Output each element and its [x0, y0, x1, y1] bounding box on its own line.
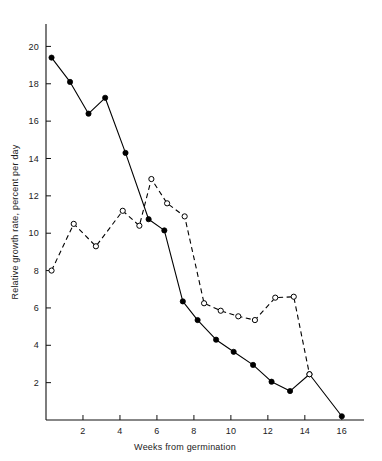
data-point-open	[93, 244, 98, 249]
x-tick-label: 8	[191, 426, 196, 436]
x-axis-title: Weeks from germination	[134, 442, 236, 452]
data-point-open	[218, 308, 223, 313]
x-tick-label: 4	[117, 426, 122, 436]
data-point-open	[307, 372, 312, 377]
data-point-open	[49, 268, 54, 273]
data-point-filled	[162, 228, 167, 233]
data-point-filled	[339, 414, 344, 419]
data-point-open	[149, 176, 154, 181]
data-point-open	[71, 221, 76, 226]
data-point-filled	[103, 95, 108, 100]
x-tick-label: 6	[154, 426, 159, 436]
data-point-open	[120, 208, 125, 213]
data-point-filled	[146, 217, 151, 222]
x-tick-label: 10	[226, 426, 236, 436]
data-point-open	[291, 294, 296, 299]
data-point-open	[252, 317, 257, 322]
data-point-filled	[287, 388, 292, 393]
data-point-filled	[67, 79, 72, 84]
y-tick-label: 2	[34, 378, 39, 388]
x-tick-label: 2	[80, 426, 85, 436]
y-tick-label: 6	[34, 303, 39, 313]
series-line-filled-circle-solid-line	[52, 58, 342, 417]
data-point-filled	[49, 55, 54, 60]
y-tick-label: 10	[29, 228, 39, 238]
data-point-open	[273, 295, 278, 300]
y-tick-label: 16	[29, 116, 39, 126]
y-tick-label: 20	[29, 42, 39, 52]
y-tick-label: 8	[34, 266, 39, 276]
y-tick-label: 18	[29, 79, 39, 89]
y-axis-title: Relative growth rate, percent per day	[10, 144, 20, 299]
series-line-open-circle-dashed-line	[52, 179, 310, 374]
x-tick-label: 12	[263, 426, 273, 436]
data-point-filled	[195, 317, 200, 322]
data-point-filled	[269, 379, 274, 384]
y-tick-label: 4	[34, 340, 39, 350]
y-tick-label: 12	[29, 191, 39, 201]
data-point-open	[164, 201, 169, 206]
data-point-filled	[231, 349, 236, 354]
data-point-open	[236, 314, 241, 319]
data-point-filled	[180, 299, 185, 304]
x-tick-label: 16	[337, 426, 347, 436]
x-tick-label: 14	[300, 426, 310, 436]
data-point-filled	[250, 362, 255, 367]
data-point-open	[137, 223, 142, 228]
data-point-filled	[86, 111, 91, 116]
data-point-filled	[123, 150, 128, 155]
growth-rate-chart-figure: 2468101214162468101214161820Weeks from g…	[0, 0, 382, 461]
y-tick-label: 14	[29, 154, 39, 164]
data-point-open	[182, 214, 187, 219]
data-point-filled	[213, 337, 218, 342]
chart-plot-area: 2468101214162468101214161820Weeks from g…	[0, 0, 382, 461]
data-point-open	[201, 301, 206, 306]
